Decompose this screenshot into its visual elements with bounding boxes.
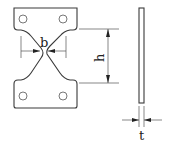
front-view [14,8,77,108]
bolt-hole-bottom-left [19,92,27,100]
b-arrow-right-icon [33,49,40,53]
b-label: b [40,35,48,50]
bolt-hole-bottom-right [59,92,67,100]
plate-side-profile [139,8,144,103]
h-arrow-up-icon [106,29,110,37]
t-arrow-right-icon [132,118,139,122]
h-label: h [92,53,107,62]
bolt-hole-top-left [19,15,27,23]
x-plate-damper-diagram: b h t [0,0,171,149]
side-view [139,8,144,103]
b-arrow-left-icon [48,49,55,53]
t-label: t [139,128,145,143]
t-arrow-left-icon [144,118,151,122]
dimension-h: h [79,29,119,83]
h-arrow-down-icon [106,75,110,83]
bolt-hole-top-right [59,15,67,23]
dimension-t: t [122,106,162,143]
